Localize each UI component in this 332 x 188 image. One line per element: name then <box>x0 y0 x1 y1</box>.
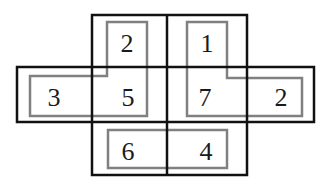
cell-mid-left: 5 <box>122 83 135 112</box>
cell-top-right: 1 <box>201 29 214 58</box>
cell-mid-right: 7 <box>199 83 212 112</box>
cell-top-left: 2 <box>121 29 134 58</box>
cell-bottom-right: 4 <box>200 137 213 166</box>
cell-mid-far-left: 3 <box>48 83 61 112</box>
puzzle-diagram: 2 1 3 5 7 2 6 4 <box>0 0 332 188</box>
cell-bottom-left: 6 <box>122 137 135 166</box>
outer-grid <box>17 15 314 175</box>
cell-mid-far-right: 2 <box>275 83 288 112</box>
center-column-block <box>92 15 247 175</box>
